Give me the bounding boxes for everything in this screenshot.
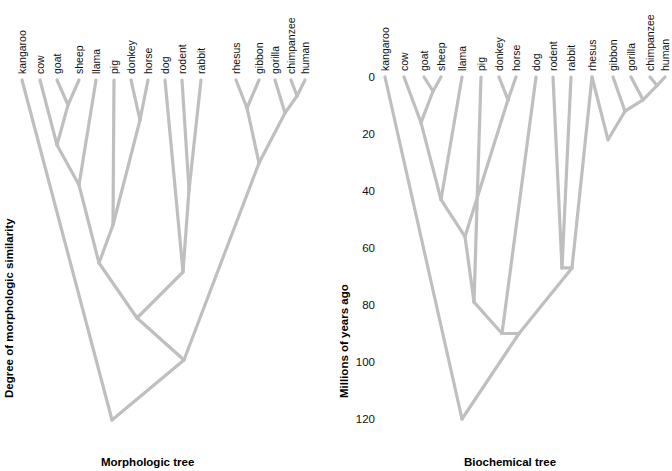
- axis-title-morphologic: Degree of morphologic similarity: [3, 218, 15, 398]
- panel-title-biochemical: Biochemical tree: [464, 456, 556, 468]
- figure-canvas: kangaroocowgoatsheepllamapigdonkeyhorsed…: [0, 0, 672, 471]
- figure-text-layer: Degree of morphologic similarity Million…: [0, 0, 672, 471]
- axis-title-biochemical: Millions of years ago: [338, 284, 350, 398]
- panel-title-morphologic: Morphologic tree: [101, 456, 194, 468]
